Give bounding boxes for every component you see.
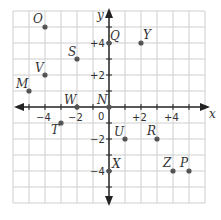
x-axis-label: x xyxy=(209,107,216,121)
point-label: V xyxy=(35,61,45,75)
point-X xyxy=(106,168,111,173)
point-T xyxy=(58,120,63,125)
point-label: P xyxy=(179,156,189,170)
y-axis-arrow-up-icon xyxy=(105,8,113,18)
origin-label: 0 xyxy=(98,111,104,122)
point-label: R xyxy=(146,124,156,138)
point-O xyxy=(42,24,47,29)
point-label: O xyxy=(33,12,43,26)
x-tick-label: +2 xyxy=(132,112,147,123)
y-axis-label: y xyxy=(96,8,104,22)
points: O Q Y S V M W N T U R X Z P xyxy=(15,12,192,174)
point-label: U xyxy=(114,125,125,139)
coordinate-plane: x y 0 −4 −2 +2 +4 +4 +2 −2 −4 O Q Y S V … xyxy=(0,0,221,220)
y-tick-label: +4 xyxy=(90,38,105,49)
x-tick-label: +4 xyxy=(164,112,179,123)
x-axis-arrow-left-icon xyxy=(14,103,24,111)
point-label: Y xyxy=(143,28,152,42)
point-label: S xyxy=(68,45,76,59)
point-label: N xyxy=(96,93,108,107)
y-tick-label: +2 xyxy=(90,70,105,81)
point-label: M xyxy=(15,77,29,91)
x-tick-label: −2 xyxy=(68,112,83,123)
point-label: T xyxy=(51,123,60,137)
point-label: W xyxy=(64,93,78,107)
point-label: Q xyxy=(110,29,120,43)
y-axis-arrow-down-icon xyxy=(105,196,113,206)
point-label: Z xyxy=(162,156,172,170)
point-label: X xyxy=(111,157,121,171)
y-tick-label: −2 xyxy=(90,134,105,145)
y-tick-label: −4 xyxy=(90,166,105,177)
x-tick-label: −4 xyxy=(36,112,51,123)
